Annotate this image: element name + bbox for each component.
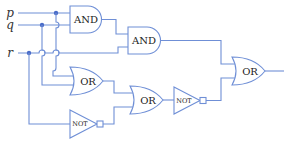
- or-gate-2-label: OR: [140, 95, 156, 106]
- wire-not2-out: [206, 78, 236, 101]
- not-gate-1-label: NOT: [72, 120, 88, 128]
- or-gate-1-label: OR: [80, 76, 96, 87]
- wire-and1-out: [102, 20, 131, 35]
- or-gate-3-label: OR: [242, 66, 258, 77]
- wire-r: [18, 47, 131, 53]
- or-gate-1: OR: [70, 67, 103, 95]
- wire-and2-out: [161, 41, 236, 65]
- not-gate-2: NOT: [174, 87, 206, 114]
- wire-not1-out: [103, 107, 133, 124]
- or-gate-3: OR: [232, 57, 265, 85]
- logic-circuit-diagram: p q r AND AND OR NOT OR: [0, 0, 284, 145]
- not-gate-1-bubble: [97, 121, 103, 127]
- wire-or1-out: [103, 81, 133, 93]
- not-gate-2-label: NOT: [176, 97, 192, 105]
- wire-r-branch: [29, 53, 72, 124]
- input-label-r: r: [7, 46, 14, 60]
- not-gate-1: NOT: [70, 110, 103, 138]
- and-gate-2: AND: [128, 27, 161, 54]
- and-gate-1: AND: [70, 6, 102, 33]
- not-gate-2-bubble: [200, 98, 206, 104]
- input-label-q: q: [6, 18, 14, 32]
- and-gate-1-label: AND: [73, 14, 98, 25]
- and-gate-2-label: AND: [131, 35, 156, 46]
- or-gate-2: OR: [130, 86, 163, 114]
